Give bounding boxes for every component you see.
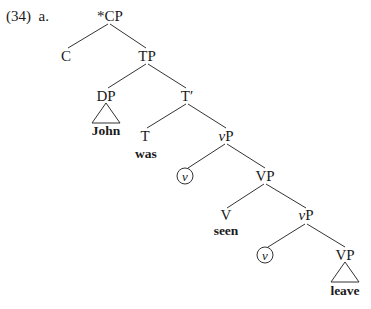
node-vp-1: VP <box>255 169 274 184</box>
node-little-vp-1: vP <box>218 129 233 144</box>
little-v-prefix: v <box>218 128 225 144</box>
node-little-vp-2: vP <box>298 208 313 223</box>
node-vp-2: VP <box>335 248 354 263</box>
word-was: was <box>135 147 157 161</box>
node-t: T <box>140 129 149 144</box>
node-dp: DP <box>96 89 115 104</box>
node-tp: TP <box>138 49 156 64</box>
node-t-bar: T′ <box>181 89 193 104</box>
phrase-suffix: P <box>305 207 313 223</box>
node-c: C <box>61 49 71 64</box>
circled-v-node-1: v <box>177 168 194 185</box>
node-v: V <box>221 208 232 223</box>
word-john: John <box>92 124 121 138</box>
node-cp: *CP <box>97 9 123 24</box>
little-v-prefix: v <box>298 207 305 223</box>
word-leave: leave <box>330 284 359 298</box>
word-seen: seen <box>214 224 239 238</box>
tree-branches <box>0 0 371 309</box>
phrase-suffix: P <box>225 128 233 144</box>
circled-v-node-2: v <box>257 247 274 264</box>
